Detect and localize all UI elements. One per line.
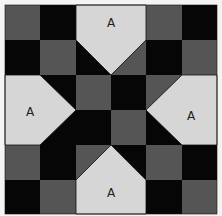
patch-label: A bbox=[107, 16, 116, 30]
patch-label: A bbox=[187, 109, 196, 123]
quilt-block-diagram: A A A A bbox=[0, 0, 222, 216]
patch-label: A bbox=[107, 186, 116, 200]
patch-label: A bbox=[26, 105, 35, 119]
